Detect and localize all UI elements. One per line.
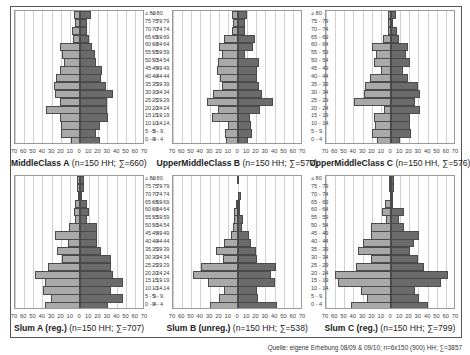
x-tick-label: 50 [280, 148, 286, 154]
x-tick-label: 20 [57, 313, 63, 319]
x-tick-label: 70 [169, 313, 175, 319]
x-tick-label: 50 [340, 148, 346, 154]
age-label: 0 - 4 [152, 302, 163, 308]
age-label: 10 - 14. [152, 286, 171, 292]
bar-right [238, 137, 248, 144]
age-label: 20 - 24 [311, 106, 328, 112]
x-tick-label: 50 [122, 313, 128, 319]
age-label: 10 - 14. [152, 121, 171, 127]
gridline [191, 11, 192, 143]
age-label: ≥ 80 [311, 176, 322, 182]
x-tick-label: 10 [243, 148, 249, 154]
age-label: 20 - 24 [311, 271, 328, 277]
age-label: 50 - 54 [311, 58, 328, 64]
x-tick-label: 50 [29, 313, 35, 319]
gridline [418, 11, 419, 143]
chart-title: UpperMiddleClass B (n=150 HH; ∑=577) [157, 158, 318, 168]
chart-title-group: MiddleClass A [11, 158, 69, 168]
x-tick-label: 20 [94, 148, 100, 154]
chart-title-group: UpperMiddleClass C [310, 158, 394, 168]
gridline [173, 11, 174, 143]
bar-left [210, 302, 238, 309]
gridline [126, 176, 127, 308]
x-tick-label: 10 [243, 313, 249, 319]
age-label: 10 - 14. [311, 286, 330, 292]
gridline [135, 176, 136, 308]
age-label: 30 - 34 [311, 90, 328, 96]
x-tick-label: 20 [252, 313, 258, 319]
gridline [33, 176, 34, 308]
gridline [107, 11, 108, 143]
chart-title-stats: (n=150 HH; ∑=660) [69, 158, 146, 168]
x-tick-label: 30 [104, 148, 110, 154]
x-tick-label: 40 [350, 313, 356, 319]
age-label: 25 - 29 [152, 263, 169, 269]
bar-left [226, 137, 238, 144]
age-label: 20 - 24 [152, 106, 169, 112]
age-label: 5 - 9. [311, 294, 324, 300]
gridline [265, 11, 266, 143]
bar-left [237, 176, 239, 184]
age-label: 45 - 49 [152, 66, 169, 72]
age-label: 75 - 79 [152, 19, 169, 25]
x-tick-label: 60 [442, 148, 448, 154]
gridline [117, 11, 118, 143]
x-tick-label: 10 [85, 148, 91, 154]
age-label: 15 - 19 [152, 113, 169, 119]
age-label: 55 - 59 [152, 215, 169, 221]
x-tick-label: 50 [187, 148, 193, 154]
x-tick-label: 30 [206, 313, 212, 319]
x-tick-label: 70 [141, 148, 147, 154]
age-label: 35 - 39 [152, 82, 169, 88]
age-label: 25 - 29 [311, 98, 328, 104]
x-tick-label: 20 [252, 148, 258, 154]
age-label: 40 - 44 [311, 74, 328, 80]
x-tick-label: 20 [368, 148, 374, 154]
age-label: 60 - 64 [152, 207, 169, 213]
x-tick-label: 60 [178, 148, 184, 154]
x-tick-label: 10 [66, 148, 72, 154]
age-label: ≥ 80 [152, 176, 163, 182]
gridline [33, 11, 34, 143]
age-label: 70 - 74 [311, 27, 328, 33]
x-tick-label: 50 [280, 313, 286, 319]
bar-right [238, 302, 277, 309]
chart-title-group: UpperMiddleClass B [157, 158, 241, 168]
bar-left [45, 302, 80, 309]
age-label: 40 - 44 [152, 74, 169, 80]
x-tick-label: 70 [452, 313, 458, 319]
age-label: 0 - 4 [152, 137, 163, 143]
gridline [15, 11, 16, 143]
bar-left [351, 302, 391, 309]
x-tick-label: 20 [57, 148, 63, 154]
x-tick-label: 10 [396, 148, 402, 154]
age-label: 70 - 74 [152, 192, 169, 198]
x-tick-label: 40 [271, 313, 277, 319]
source-note: Quelle: eigene Erhebung 08/09 & 09/10; n… [268, 344, 462, 351]
gridline [446, 11, 447, 143]
x-tick-label: 30 [48, 313, 54, 319]
x-tick-label: 0 [388, 148, 391, 154]
x-tick-label: 40 [197, 148, 203, 154]
age-label: 45 - 49 [311, 231, 328, 237]
x-tick-label: 40 [424, 313, 430, 319]
chart-title: Slum B (unreg.) (n=150 HH; ∑=538) [167, 323, 308, 333]
plot-area [325, 10, 455, 144]
gridline [284, 176, 285, 308]
x-tick-label: 30 [262, 313, 268, 319]
x-tick-label: 20 [215, 313, 221, 319]
age-label: 0 - 4 [311, 302, 322, 308]
bar-left [71, 137, 80, 144]
gridline [24, 11, 25, 143]
gridline [182, 176, 183, 308]
x-tick-label: 60 [178, 313, 184, 319]
age-label: 45 - 49 [311, 66, 328, 72]
gridline [52, 11, 53, 143]
bar-right [391, 137, 400, 144]
age-label: 70 - 74 [152, 27, 169, 33]
age-label: 5 - 9. [152, 129, 165, 135]
gridline [437, 11, 438, 143]
x-tick-label: 30 [48, 148, 54, 154]
x-tick-label: 20 [405, 313, 411, 319]
gridline [173, 176, 174, 308]
